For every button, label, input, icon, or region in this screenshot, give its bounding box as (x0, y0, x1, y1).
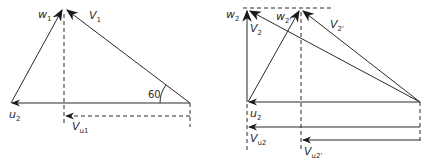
v2-prime-label: V2' (330, 18, 344, 33)
v1-vector (67, 10, 190, 103)
vu2-label: Vu2 (250, 132, 266, 147)
angle-arc (160, 85, 166, 103)
w1-vector (11, 10, 62, 103)
w2-prime-label: w2' (276, 10, 291, 25)
angle-label: 60 (148, 89, 161, 100)
w1-label: w1 (38, 8, 51, 23)
v2-prime-vector (303, 11, 420, 102)
vu2-prime-label: Vu2' (304, 145, 322, 160)
v1-label: V1 (89, 9, 101, 24)
w2-label: w2 (226, 8, 239, 23)
u2-label-right: u2 (250, 107, 261, 122)
inlet-velocity-triangle (11, 10, 190, 127)
v2-label: V2 (250, 22, 262, 37)
vu1-label: Vu1 (72, 120, 88, 135)
u2-label-left: u2 (9, 108, 20, 123)
velocity-triangle-figure: w1 V1 u2 Vu1 60 w2 V2 w2' V2' u2 Vu2 Vu2… (0, 0, 426, 161)
